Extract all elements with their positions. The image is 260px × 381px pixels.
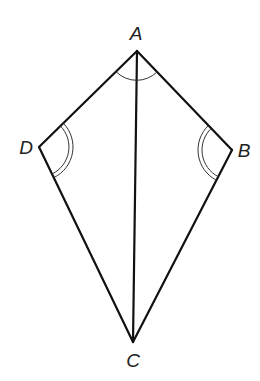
side-da	[39, 51, 137, 147]
vertex-label-a: A	[129, 23, 143, 44]
kite-diagram: A B C D	[0, 0, 260, 381]
side-cd	[39, 147, 133, 342]
side-bc	[133, 150, 232, 342]
vertex-label-c: C	[126, 350, 140, 371]
vertex-label-d: D	[19, 137, 33, 158]
diagonal-ac	[133, 51, 137, 342]
vertex-label-b: B	[238, 140, 251, 161]
side-ab	[137, 51, 232, 150]
